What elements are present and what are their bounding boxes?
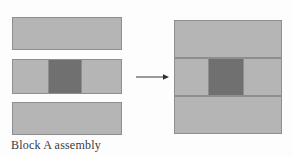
block-assembly-diagram: Block A assembly	[0, 0, 292, 157]
exploded-top-plate	[12, 17, 122, 50]
assembled-middle-core	[208, 58, 244, 96]
assembly-arrow-icon	[136, 70, 170, 84]
exploded-middle-core	[48, 59, 82, 94]
assembled-bottom-plate	[174, 96, 282, 134]
figure-caption: Block A assembly	[11, 138, 101, 153]
assembled-top-plate	[174, 20, 282, 58]
exploded-bottom-plate	[12, 102, 122, 135]
